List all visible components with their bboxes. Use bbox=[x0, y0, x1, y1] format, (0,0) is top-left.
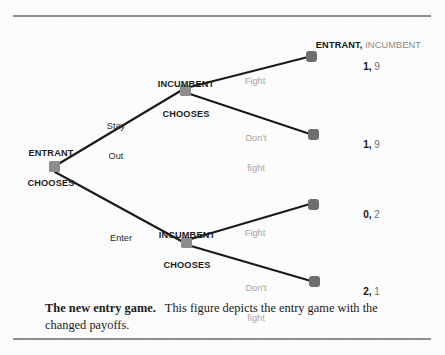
edge-label-fight-lower-text: Fight bbox=[236, 228, 274, 238]
terminal-node-3 bbox=[308, 199, 319, 210]
edge-label-enter-text: Enter bbox=[101, 233, 141, 243]
figure-caption: The new entry game.This figure depicts t… bbox=[45, 300, 417, 333]
node-label-upper-decision: INCUMBENT CHOOSES bbox=[144, 58, 228, 140]
game-tree-figure: ENTRANT, INCUMBENT ENTRANT CHOOSES INCUM… bbox=[0, 0, 445, 355]
edge-label-fight-upper-text: Fight bbox=[236, 76, 274, 86]
node-label-lower-line2: CHOOSES bbox=[145, 260, 229, 270]
edge-label-stay-out-line1: Stay bbox=[97, 121, 135, 131]
node-label-root-line2: CHOOSES bbox=[14, 178, 88, 188]
node-label-root: ENTRANT CHOOSES bbox=[14, 127, 88, 209]
edge-label-dont-fight-upper: Don't fight bbox=[236, 112, 276, 194]
edge-label-dont-fight-upper-line1: Don't bbox=[236, 133, 276, 143]
edge-label-fight-upper: Fight bbox=[236, 55, 274, 106]
edge-label-dont-fight-upper-line2: fight bbox=[236, 163, 276, 173]
edge-label-enter: Enter bbox=[101, 212, 141, 263]
payoff-2-incumbent: 9 bbox=[374, 139, 380, 150]
node-label-lower-decision: INCUMBENT CHOOSES bbox=[145, 209, 229, 291]
node-label-upper-line2: CHOOSES bbox=[144, 109, 228, 119]
node-label-lower-line1: INCUMBENT bbox=[145, 230, 229, 240]
header-player-entrant: ENTRANT, bbox=[316, 40, 363, 50]
terminal-node-2 bbox=[308, 129, 319, 140]
payoff-4-incumbent: 1 bbox=[374, 286, 380, 297]
edge-label-fight-lower: Fight bbox=[236, 207, 274, 258]
payoff-outcome-1: 1, 9 bbox=[352, 50, 380, 84]
payoff-3-incumbent: 2 bbox=[374, 209, 380, 220]
node-label-root-line1: ENTRANT bbox=[14, 148, 88, 158]
edge-label-dont-fight-lower-line1: Don't bbox=[236, 283, 276, 293]
payoff-outcome-2: 1, 9 bbox=[352, 128, 380, 162]
node-label-upper-line1: INCUMBENT bbox=[144, 79, 228, 89]
edge-label-stay-out: Stay Out bbox=[97, 100, 135, 182]
edge-label-stay-out-line2: Out bbox=[97, 151, 135, 161]
terminal-node-4 bbox=[309, 276, 320, 287]
payoff-1-incumbent: 9 bbox=[374, 61, 380, 72]
header-player-incumbent: INCUMBENT bbox=[365, 40, 421, 50]
payoff-outcome-3: 0, 2 bbox=[352, 198, 380, 232]
caption-title: The new entry game. bbox=[45, 301, 156, 315]
